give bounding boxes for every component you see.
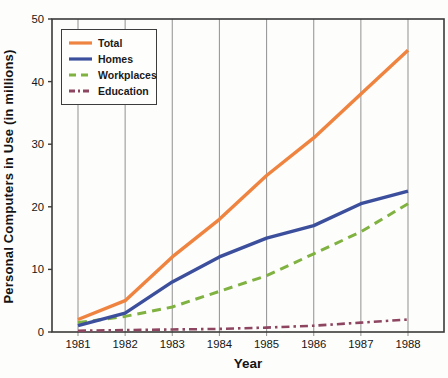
x-tick-label-1985: 1985 bbox=[254, 338, 279, 350]
legend-label: Education bbox=[98, 85, 149, 97]
legend-label: Homes bbox=[98, 53, 133, 65]
y-tick-label-10: 10 bbox=[31, 263, 44, 275]
legend: TotalHomesWorkplacesEducation bbox=[61, 29, 157, 105]
series-line-homes bbox=[78, 191, 408, 326]
legend-item-homes: Homes bbox=[69, 51, 150, 67]
y-tick-label-50: 50 bbox=[31, 13, 44, 25]
legend-item-education: Education bbox=[69, 83, 150, 99]
x-tick-label-1983: 1983 bbox=[160, 338, 185, 350]
x-axis-title: Year bbox=[52, 356, 444, 371]
legend-label: Workplaces bbox=[98, 69, 157, 81]
series-line-workplaces bbox=[78, 204, 408, 323]
legend-swatch-solid-line bbox=[69, 40, 92, 46]
y-tick-label-40: 40 bbox=[31, 76, 44, 88]
legend-item-total: Total bbox=[69, 35, 150, 51]
legend-swatch-solid-line bbox=[69, 56, 92, 62]
pc-usage-line-chart-figure: 1981198219831984198519861987198801020304… bbox=[0, 0, 448, 378]
x-tick-label-1987: 1987 bbox=[348, 338, 373, 350]
x-tick-label-1984: 1984 bbox=[207, 338, 232, 350]
legend-swatch-dashdot-line bbox=[69, 88, 92, 94]
x-tick-label-1986: 1986 bbox=[301, 338, 326, 350]
legend-item-workplaces: Workplaces bbox=[69, 67, 150, 83]
y-axis-title: Personal Computers in Use (in millions) bbox=[1, 7, 16, 347]
x-tick-label-1988: 1988 bbox=[395, 338, 420, 350]
series-line-education bbox=[78, 320, 408, 331]
x-tick-label-1982: 1982 bbox=[113, 338, 138, 350]
legend-label: Total bbox=[98, 37, 122, 49]
y-tick-label-30: 30 bbox=[31, 138, 44, 150]
legend-swatch-dashed-line bbox=[69, 72, 92, 78]
x-tick-label-1981: 1981 bbox=[65, 338, 90, 350]
y-tick-label-20: 20 bbox=[31, 201, 44, 213]
y-tick-label-0: 0 bbox=[38, 326, 44, 338]
